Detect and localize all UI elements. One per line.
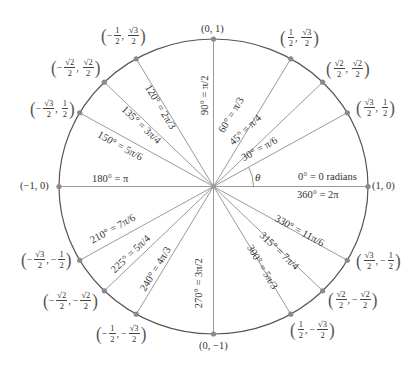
point-240: [134, 312, 139, 317]
point-135: [102, 80, 107, 85]
point-45: [320, 80, 325, 85]
unit-circle-diagram: θ 0° = 0 radians 360° = 2π 180° = π 30° …: [0, 0, 416, 370]
point-225: [102, 288, 107, 293]
coord-label-30: (√32,12): [356, 98, 395, 117]
point-300: [288, 312, 293, 317]
coord-label-315: (√22,−√22): [328, 290, 377, 309]
ray-label-180: 180° = π: [92, 174, 128, 185]
point-90: [211, 36, 216, 41]
point-120: [134, 56, 139, 61]
coord-label-150: (−√32,12): [30, 99, 75, 118]
ray-210: [80, 187, 214, 261]
point-330: [345, 258, 350, 263]
point-60: [288, 56, 293, 61]
coord-label-240: (−12,−√32): [96, 324, 146, 343]
ray-label-360: 360° = 2π: [297, 190, 339, 201]
coord-label-180: (−1, 0): [20, 181, 49, 192]
unit-circle-graphic: [0, 0, 416, 370]
point-210: [77, 258, 82, 263]
coord-label-225: (−√22,−√22): [43, 291, 98, 310]
point-30: [345, 110, 350, 115]
coord-label-60: (12,√32): [280, 28, 319, 47]
point-315: [320, 288, 325, 293]
ray-label-90: 90° = π/2: [200, 76, 211, 115]
ray-label-270: 270° = 3π/2: [194, 258, 205, 308]
coord-label-0: (1, 0): [372, 181, 395, 192]
theta-arc: [249, 167, 254, 186]
coord-label-90: (0, 1): [201, 24, 224, 35]
coord-label-300: (12,−√32): [290, 320, 335, 339]
coord-label-270: (0, −1): [199, 341, 228, 352]
coord-label-45: (√22,√22): [326, 59, 370, 78]
point-150: [77, 110, 82, 115]
coord-label-135: (−√22,√22): [51, 58, 100, 77]
coord-label-120: (−12,√32): [101, 26, 146, 45]
point-0: [365, 184, 370, 189]
point-180: [56, 184, 61, 189]
ray-label-0: 0° = 0 radians: [298, 172, 357, 183]
coord-label-210: (−√32,−12): [21, 250, 71, 269]
coord-label-330: (√32,−12): [356, 251, 401, 270]
theta-label: θ: [255, 172, 260, 183]
point-270: [211, 331, 216, 336]
